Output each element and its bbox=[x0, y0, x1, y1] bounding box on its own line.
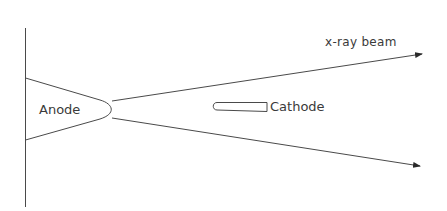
xray-tube-diagram: Anode Cathode x-ray beam bbox=[0, 0, 447, 211]
cathode-shape bbox=[213, 103, 267, 112]
beam-arrow-lower bbox=[112, 118, 420, 166]
anode-label: Anode bbox=[39, 103, 80, 116]
xray-beam-label: x-ray beam bbox=[325, 36, 397, 48]
cathode-label: Cathode bbox=[270, 100, 325, 113]
beam-arrow-upper bbox=[112, 54, 422, 101]
